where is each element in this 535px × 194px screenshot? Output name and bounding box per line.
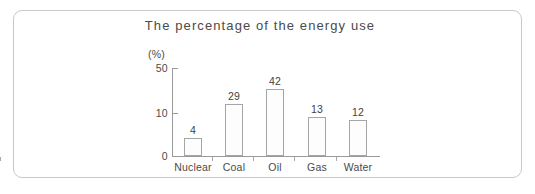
- y-tick-label-50: 50: [146, 62, 168, 74]
- y-tick-mark-0: [173, 156, 178, 157]
- bar-nuclear: [184, 138, 202, 156]
- y-tick-mark-10: [173, 113, 178, 114]
- plot-area: (%) 50 10 0 4 29 42 13 12 Nuclear Coal O…: [0, 0, 535, 194]
- bar-value-oil: 42: [255, 75, 295, 87]
- bar-gas: [308, 117, 326, 156]
- y-tick-label-10: 10: [146, 107, 168, 119]
- category-label-water: Water: [330, 161, 386, 173]
- bar-value-water: 12: [338, 106, 378, 118]
- y-tick-mark-50: [173, 68, 178, 69]
- bar-value-nuclear: 4: [173, 124, 213, 136]
- bar-oil: [266, 89, 284, 156]
- bar-value-coal: 29: [214, 90, 254, 102]
- x-axis-line: [172, 156, 380, 157]
- bar-water: [349, 120, 367, 156]
- bar-value-gas: 13: [297, 103, 337, 115]
- chart-figure: The percentage of the energy use (%) 50 …: [0, 0, 535, 194]
- bar-coal: [225, 104, 243, 156]
- y-axis-unit-label: (%): [148, 48, 165, 60]
